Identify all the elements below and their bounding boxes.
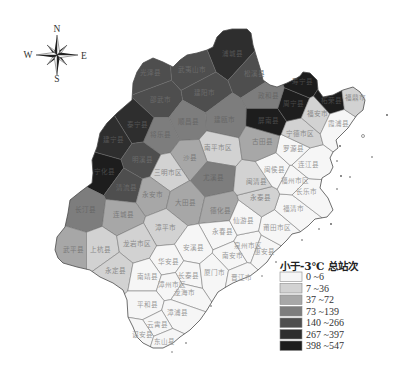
region-label: 闽清县 (246, 177, 267, 186)
map-region (0, 0, 172, 96)
legend: 小于-3℃ 总站次 0 ~6 7 ~36 37 ~72 73 ~139 140 … (279, 260, 359, 352)
legend-label: 0 ~6 (306, 271, 324, 282)
island-marker (301, 239, 303, 241)
region-label: 大田县 (175, 198, 196, 207)
island-marker (171, 351, 172, 352)
legend-swatch (280, 295, 302, 305)
region-label: 建瓯市 (214, 115, 235, 124)
island-marker (340, 175, 342, 177)
region-label: 沙县 (183, 154, 197, 162)
region-label: 长泰县 (178, 271, 199, 280)
island-marker (185, 342, 187, 344)
region-label: 龙岩市区 (123, 239, 151, 248)
map-region (0, 206, 87, 377)
legend-row: 37 ~72 (280, 294, 334, 305)
region-label: 宁化县 (94, 167, 115, 176)
region-label: 武夷山市 (178, 65, 206, 74)
compass-rose: N S E W (24, 24, 88, 84)
region-label: 福州市区 (281, 176, 309, 185)
region-label: 建宁县 (103, 135, 124, 144)
region-label: 政和县 (258, 91, 279, 100)
region-label: 诏安县 (132, 330, 153, 339)
region-label: 仙游县 (233, 216, 254, 225)
legend-swatch (280, 307, 302, 317)
region-label: 福鼎市 (345, 93, 366, 102)
region-label: 顺昌县 (178, 118, 199, 126)
region-label: 永泰县 (250, 193, 271, 202)
island-marker (349, 176, 351, 178)
island-marker (371, 156, 373, 158)
island-marker (318, 228, 320, 230)
island-marker (210, 305, 212, 307)
compass-south-label: S (54, 74, 59, 84)
island-marker (386, 114, 388, 116)
region-label: 寿宁县 (292, 77, 313, 86)
region-label: 永定县 (105, 266, 126, 275)
region-label: 厦门市 (204, 268, 225, 277)
region-label: 漳平市 (155, 223, 176, 232)
region-label: 古田县 (252, 137, 273, 146)
region-label: 宁德市区 (286, 129, 314, 138)
region-label: 漳浦县 (167, 308, 188, 317)
region-label: 将乐县 (150, 130, 171, 139)
legend-swatch (280, 272, 302, 282)
legend-label: 140 ~266 (306, 317, 344, 328)
region-label: 南平市区 (204, 143, 232, 152)
legend-label: 398 ~547 (306, 340, 344, 351)
compass-west-label: W (24, 50, 33, 60)
region-label: 尤溪县 (203, 173, 224, 182)
compass-star-icon (36, 35, 78, 75)
region-label: 福安市 (307, 109, 328, 118)
legend-row: 140 ~266 (280, 317, 344, 328)
region-label: 安溪县 (183, 243, 204, 252)
region-label: 光泽县 (140, 68, 161, 77)
region-label: 上杭县 (90, 245, 111, 254)
region-label: 漳州市区 (158, 280, 186, 289)
map-region (338, 0, 408, 151)
legend-row: 267 ~397 (280, 329, 344, 340)
legend-swatch (280, 318, 302, 328)
region-label: 晋江市 (231, 273, 252, 282)
region-label: 邵武市 (150, 95, 171, 104)
legend-label: 267 ~397 (306, 329, 344, 340)
legend-swatch (280, 341, 302, 351)
region-label: 平和县 (137, 300, 158, 309)
region-label: 屏南县 (258, 116, 279, 125)
region-label: 建阳市 (194, 88, 215, 97)
region-label: 柘荣县 (321, 96, 342, 105)
legend-title: 小于-3℃ 总站次 (279, 260, 359, 272)
region-label: 泰宁县 (127, 120, 148, 129)
island-marker (362, 135, 365, 138)
island-marker (336, 160, 338, 162)
region-label: 云霄县 (147, 321, 168, 329)
region-label: 德化县 (210, 206, 231, 215)
region-label: 龙海市 (174, 288, 195, 297)
legend-row: 398 ~547 (280, 340, 344, 351)
region-label: 连城县 (113, 210, 134, 219)
region-label: 周宁县 (283, 99, 304, 108)
island-marker (336, 188, 338, 190)
legend-swatch (280, 330, 302, 340)
region-label: 惠安县 (254, 247, 275, 256)
map-region (141, 329, 258, 377)
region-label: 清流县 (116, 183, 137, 192)
legend-swatch (280, 284, 302, 294)
island-marker (261, 275, 262, 276)
legend-row: 7 ~36 (280, 283, 329, 294)
region-label: 莆田市区 (263, 223, 291, 232)
region-label: 明溪县 (132, 155, 153, 164)
region-label: 霞浦县 (328, 119, 349, 128)
legend-label: 7 ~36 (306, 283, 329, 294)
legend-row: 0 ~6 (280, 271, 324, 282)
region-label: 连江县 (298, 160, 319, 169)
region-label: 南安市 (222, 251, 243, 260)
region-label: 永安市 (142, 190, 163, 199)
region-label: 松溪县 (244, 69, 265, 78)
island-marker (330, 223, 332, 225)
region-label: 浦城县 (222, 49, 243, 58)
island-marker (339, 145, 341, 147)
legend-label: 37 ~72 (306, 294, 334, 305)
legend-row: 73 ~139 (280, 306, 339, 317)
fujian-choropleth-map: 浦城县光泽县武夷山市松溪县政和县建阳市邵武市建瓯市顺昌县将乐县泰宁县建宁县南平市… (0, 0, 408, 377)
region-label: 华安县 (158, 257, 179, 266)
